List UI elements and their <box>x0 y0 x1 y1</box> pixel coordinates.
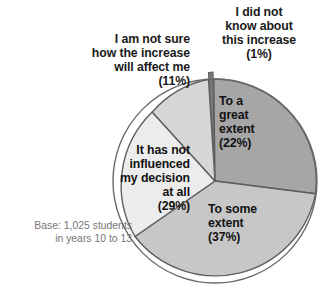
pie-label-great-extent: To a great extent(22%) <box>219 95 293 151</box>
pie-label-did-not-know: I did not know about this increase(1%) <box>195 6 323 62</box>
pie-label-some-extent-value: (37%) <box>208 230 240 244</box>
chart-base-note-line1: Base: 1,025 students <box>34 220 132 231</box>
pie-label-great-extent-value: (22%) <box>219 136 251 150</box>
chart-base-note-line2: in years 10 to 13 <box>55 233 132 244</box>
pie-label-not-influenced-value: (29%) <box>158 199 190 213</box>
chart-base-note: Base: 1,025 studentsin years 10 to 13 <box>4 219 132 246</box>
pie-label-not-sure-text: I am not sure how the increase will affe… <box>92 32 190 74</box>
pie-label-not-influenced: It has not influenced my decision at all… <box>106 144 190 213</box>
pie-chart: I did not know about this increase(1%) I… <box>0 0 331 297</box>
pie-label-some-extent: To some extent(37%) <box>208 203 294 245</box>
pie-label-not-influenced-text: It has not influenced my decision at all <box>120 143 190 199</box>
pie-label-did-not-know-text: I did not know about this increase <box>222 5 296 47</box>
pie-label-great-extent-text: To a great extent <box>219 94 255 136</box>
pie-label-some-extent-text: To some extent <box>208 202 257 230</box>
pie-label-not-sure: I am not sure how the increase will affe… <box>44 33 190 89</box>
pie-label-not-sure-value: (11%) <box>158 74 190 88</box>
pie-label-did-not-know-value: (1%) <box>246 47 272 61</box>
